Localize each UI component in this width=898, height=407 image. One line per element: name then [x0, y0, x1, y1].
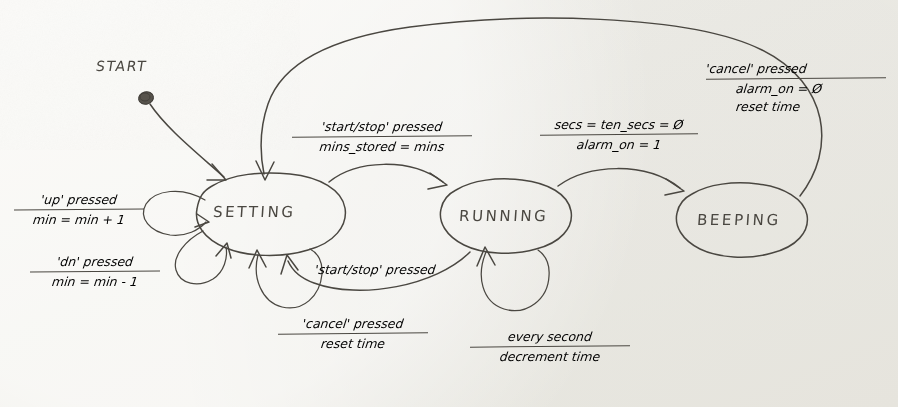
transition-beeping-to-setting-guard: 'cancel' pressed — [705, 60, 887, 77]
transition-running-to-beeping — [558, 169, 684, 195]
transition-setting-cancel-guard: 'cancel' pressed — [277, 315, 429, 332]
state-label-beeping: BEEPING — [696, 211, 781, 229]
start-label: START — [95, 58, 149, 74]
transition-running-tick-guard: every second — [469, 328, 631, 345]
transition-label-setting-to-running: 'start/stop' pressed mins_stored = mins — [292, 118, 472, 156]
transition-label-beeping-to-setting: 'cancel' pressed alarm_on = Ø reset time — [706, 60, 886, 115]
transition-running-to-beeping-action: alarm_on = 1 — [539, 136, 699, 153]
transition-dn-selfloop — [175, 231, 231, 284]
transition-up-action: min = min + 1 — [13, 211, 145, 228]
transition-up-guard: 'up' pressed — [13, 191, 145, 208]
state-label-running: RUNNING — [458, 207, 549, 225]
transition-setting-to-running-guard: 'start/stop' pressed — [291, 118, 473, 135]
transition-up-selfloop — [143, 191, 209, 235]
state-label-setting: SETTING — [212, 203, 296, 221]
transition-setting-to-running-action: mins_stored = mins — [291, 138, 473, 155]
diagram-canvas: START SETTING RUNNING BEEPING 'up' press… — [0, 0, 898, 407]
transition-running-tick-selfloop — [477, 247, 549, 311]
transition-beeping-to-setting-action2: reset time — [735, 98, 887, 115]
transition-dn-action: min = min - 1 — [29, 273, 161, 290]
transition-label-running-to-beeping: secs = ten_secs = Ø alarm_on = 1 — [540, 116, 698, 154]
transition-label-running-tick: every second decrement time — [470, 328, 630, 366]
transition-running-to-beeping-guard: secs = ten_secs = Ø — [539, 116, 699, 133]
transition-running-tick-action: decrement time — [469, 348, 631, 365]
transition-setting-cancel-action: reset time — [277, 335, 429, 352]
transition-beeping-to-setting-action: alarm_on = Ø — [735, 80, 887, 97]
transition-setting-to-running — [329, 164, 447, 189]
start-transition-arrow — [150, 104, 226, 180]
transition-dn-guard: 'dn' pressed — [29, 253, 161, 270]
transition-label-up: 'up' pressed min = min + 1 — [14, 191, 144, 229]
transition-label-running-to-setting: 'start/stop' pressed — [314, 262, 436, 277]
transition-label-dn: 'dn' pressed min = min - 1 — [30, 253, 160, 291]
transition-label-setting-cancel: 'cancel' pressed reset time — [278, 315, 428, 353]
start-marker-dot — [137, 90, 155, 106]
